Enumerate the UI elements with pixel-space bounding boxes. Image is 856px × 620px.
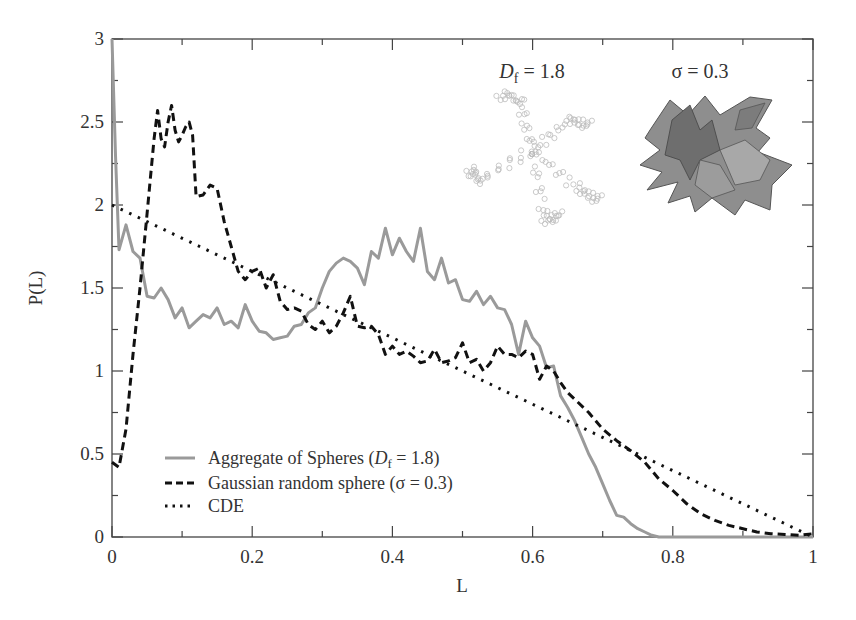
y-tick-label: 1.5 [80, 277, 104, 298]
y-tick-label: 2 [95, 194, 105, 215]
y-tick-label: 3 [95, 28, 105, 49]
x-tick-label: 0 [107, 546, 117, 567]
x-axis-label: L [456, 575, 468, 596]
sphere-inset: σ = 0.3 [640, 60, 792, 215]
legend-label-aggregate: Aggregate of Spheres (Df = 1.8) [208, 448, 439, 471]
aggregate-inset: Df = 1.8 [464, 60, 605, 227]
y-tick-label: 0.5 [80, 443, 104, 464]
line-chart: 00.20.40.60.8100.511.522.53 L P(L) Df = … [0, 0, 856, 620]
y-tick-label: 0 [95, 526, 105, 547]
sphere-inset-label: σ = 0.3 [671, 60, 728, 82]
x-tick-label: 0.8 [661, 546, 685, 567]
legend-label-cde: CDE [208, 496, 244, 516]
x-tick-label: 0.4 [381, 546, 405, 567]
x-tick-label: 1 [808, 546, 818, 567]
y-tick-label: 1 [95, 360, 105, 381]
legend-item-gaussian: Gaussian random sphere (σ = 0.3) [165, 473, 453, 494]
legend-item-cde: CDE [165, 496, 244, 516]
legend: Aggregate of Spheres (Df = 1.8) Gaussian… [165, 448, 453, 516]
x-tick-label: 0.6 [521, 546, 545, 567]
gaussian-sphere-image [640, 96, 792, 215]
x-tick-label: 0.2 [240, 546, 264, 567]
legend-label-gaussian: Gaussian random sphere (σ = 0.3) [208, 473, 453, 494]
legend-item-aggregate: Aggregate of Spheres (Df = 1.8) [165, 448, 439, 471]
fractal-aggregate-image [464, 89, 605, 227]
aggregate-inset-label: Df = 1.8 [498, 60, 564, 86]
y-axis-label: P(L) [25, 271, 47, 306]
y-tick-label: 2.5 [80, 111, 104, 132]
